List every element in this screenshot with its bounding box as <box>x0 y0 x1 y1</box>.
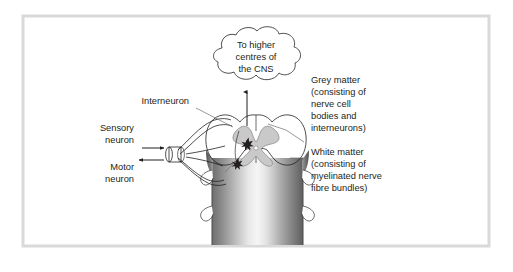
label-grey-matter-line-5: interneurons) <box>311 123 366 133</box>
cloud-text-line-3: the CNS <box>238 64 273 74</box>
label-grey-matter-line-3: nerve cell <box>311 99 351 109</box>
diagram-canvas: To higher centres of the CNS Interneuron… <box>0 0 513 272</box>
leader-interneuron <box>196 108 233 127</box>
cloud-text-line-1: To higher <box>237 40 275 50</box>
central-canal <box>254 146 258 150</box>
label-white-matter-line-1: White matter <box>311 147 364 157</box>
label-white-matter-line-4: fibre bundles) <box>311 183 367 193</box>
label-grey-matter-line-1: Grey matter <box>311 75 360 85</box>
label-sensory-neuron-line-2: neuron <box>105 135 134 145</box>
label-motor-neuron-line-1: Motor <box>110 162 134 172</box>
label-grey-matter-line-4: bodies and <box>311 111 357 121</box>
label-interneuron: Interneuron <box>141 96 189 106</box>
label-motor-neuron-line-2: neuron <box>105 174 134 184</box>
label-white-matter-line-3: myelinated nerve <box>311 171 382 181</box>
label-white-matter-line-2: (consisting of <box>311 159 366 169</box>
label-sensory-neuron-line-1: Sensory <box>100 123 134 133</box>
label-grey-matter-line-2: (consisting of <box>311 87 366 97</box>
dorsal-root-ganglion <box>166 147 185 162</box>
cloud-text-line-2: centres of <box>236 52 277 62</box>
